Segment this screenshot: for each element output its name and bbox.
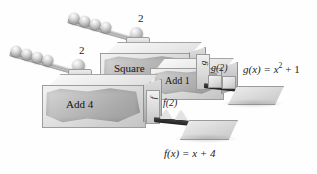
output-label-g: g(2) xyxy=(211,63,228,73)
output-block-g xyxy=(222,76,236,89)
input-value-g: 2 xyxy=(138,13,144,24)
tray-shadow-g xyxy=(222,99,284,108)
formula-g-exponent: 2 xyxy=(279,61,283,70)
output-cone-f xyxy=(175,110,187,120)
formula-f: f(x) = x + 4 xyxy=(164,148,216,159)
output-block-g xyxy=(208,75,222,88)
machine-label-add-4: Add 4 xyxy=(66,98,93,110)
tray-shadow-f xyxy=(174,134,238,143)
machine-box-add-4: Add 4 xyxy=(42,74,160,130)
formula-g: g(x) = x2+ 1 xyxy=(243,62,300,75)
formula-g-tail: + 1 xyxy=(285,63,299,75)
panel-letter-f: f xyxy=(148,93,158,104)
formula-g-head: g(x) = x xyxy=(243,63,279,75)
output-label-f: f(2) xyxy=(163,98,177,108)
panel-letter-g: g xyxy=(198,58,208,69)
input-value-f: 2 xyxy=(79,45,85,56)
output-cone-f xyxy=(160,109,172,119)
machine-label-square: Square xyxy=(114,62,145,74)
machine-label-add-1: Add 1 xyxy=(165,75,190,86)
figure-canvas: 2 Square Add 1 g g(2) g(x) = x2+ 1 xyxy=(0,0,317,174)
